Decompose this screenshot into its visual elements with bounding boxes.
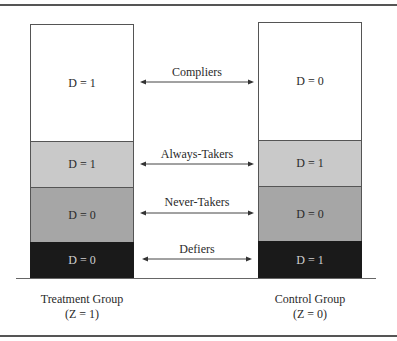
segment-value: D = 1: [68, 157, 95, 172]
control-never-takers-segment: D = 0: [258, 186, 362, 241]
bottom-rule: [0, 335, 397, 337]
top-rule: [0, 4, 397, 6]
always-takers-double-arrow-icon: [139, 160, 255, 168]
treatment-defiers-segment: D = 0: [30, 242, 134, 278]
treatment-group-z: (Z = 1): [22, 307, 142, 322]
segment-value: D = 0: [68, 253, 95, 268]
control-group-caption: Control Group (Z = 0): [250, 292, 370, 322]
segment-value: D = 1: [68, 76, 95, 91]
segment-value: D = 0: [296, 74, 323, 89]
segment-value: D = 1: [296, 156, 323, 171]
treatment-group-column: D = 1 D = 1 D = 0 D = 0: [30, 24, 134, 278]
treatment-always-takers-segment: D = 1: [30, 141, 134, 187]
segment-value: D = 1: [296, 253, 323, 268]
segment-value: D = 0: [68, 208, 95, 223]
control-compliers-segment: D = 0: [258, 22, 362, 140]
treatment-group-caption: Treatment Group (Z = 1): [22, 292, 142, 322]
baseline: [16, 278, 376, 279]
control-group-title: Control Group: [250, 292, 370, 307]
defiers-double-arrow-icon: [141, 255, 253, 263]
compliers-double-arrow-icon: [139, 78, 255, 86]
control-always-takers-segment: D = 1: [258, 140, 362, 186]
never-takers-label: Never-Takers: [140, 195, 254, 210]
treatment-never-takers-segment: D = 0: [30, 187, 134, 242]
control-defiers-segment: D = 1: [258, 241, 362, 278]
control-group-column: D = 0 D = 1 D = 0 D = 1: [258, 22, 362, 278]
never-takers-double-arrow-icon: [139, 209, 255, 217]
treatment-compliers-segment: D = 1: [30, 24, 134, 141]
control-group-z: (Z = 0): [250, 307, 370, 322]
treatment-group-title: Treatment Group: [22, 292, 142, 307]
segment-value: D = 0: [296, 207, 323, 222]
